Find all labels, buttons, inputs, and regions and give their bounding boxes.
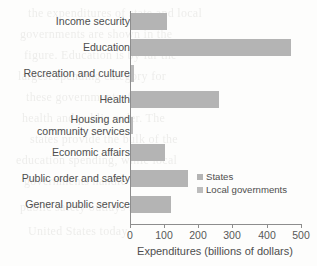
bar-economic-affairs [130,144,165,161]
x-axis-title: Expenditures (billions of dollars) [137,245,293,257]
bar-income-security [130,13,167,30]
legend-label-states: States [206,171,233,182]
chart-figure: the expenditures of state and local gove… [0,0,317,266]
x-ticklabel-500: 500 [292,229,310,241]
category-label-education: Education [83,42,130,54]
x-ticklabel-0: 0 [127,229,133,241]
x-ticklabel-300: 300 [223,229,241,241]
category-label-line1: Housing and [37,114,130,126]
bar-health [130,91,219,108]
x-axis-line [130,224,301,225]
plot-area: Income security Education Recreation and… [0,0,317,266]
x-ticklabel-100: 100 [155,229,173,241]
legend-item-states: States [197,171,287,182]
bar-public-order-and-safety [130,170,188,187]
x-tick-200 [198,224,199,228]
x-ticklabel-200: 200 [189,229,207,241]
legend-swatch-states-icon [197,174,203,180]
category-label-public-order-and-safety: Public order and safety [22,173,130,185]
category-label-economic-affairs: Economic affairs [52,147,130,159]
category-label-housing-and-community-services: Housing and community services [37,114,130,137]
legend-swatch-local-governments-icon [197,187,203,193]
bar-education [130,39,291,56]
x-tick-400 [267,224,268,228]
category-label-recreation-and-culture: Recreation and culture [23,68,130,80]
x-tick-0 [130,224,131,228]
category-label-health: Health [99,94,130,106]
y-axis-line [130,11,131,224]
legend-label-local-governments: Local governments [206,184,287,195]
x-tick-300 [232,224,233,228]
category-label-income-security: Income security [56,16,130,28]
x-tick-100 [164,224,165,228]
legend-item-local-governments: Local governments [197,184,287,195]
chart-legend: States Local governments [197,171,287,197]
bar-general-public-service [130,196,171,213]
category-label-line2: community services [37,126,130,138]
x-ticklabel-400: 400 [258,229,276,241]
x-tick-500 [301,224,302,228]
category-label-general-public-service: General public service [25,199,130,211]
